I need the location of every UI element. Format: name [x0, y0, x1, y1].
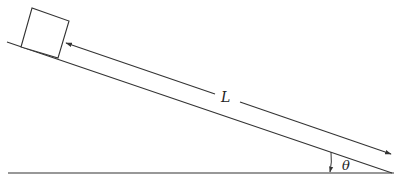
block: [21, 8, 69, 58]
length-arrow-lower: [240, 102, 391, 154]
angle-arc: [330, 152, 331, 172]
inclined-plane-diagram: L θ: [0, 0, 398, 182]
length-arrow-upper: [66, 43, 215, 94]
angle-label: θ: [342, 158, 350, 173]
incline-surface: [7, 42, 392, 173]
length-label: L: [220, 89, 230, 105]
